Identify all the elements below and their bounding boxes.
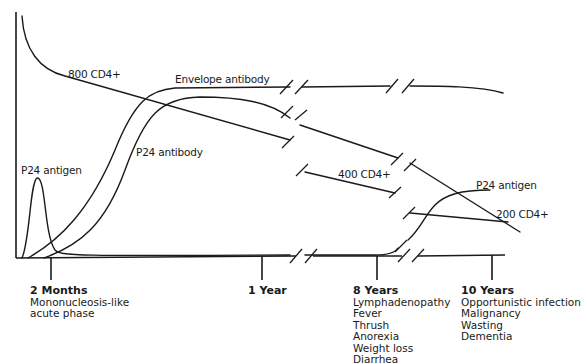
timeline-note: acute phase: [30, 308, 129, 320]
envelope-antibody-late: [410, 86, 503, 93]
timeline-title: 2 Months: [30, 285, 129, 297]
timeline-2-months: 2 Months Mononucleosis-like acute phase: [30, 285, 129, 320]
p24-antibody-curve: [44, 97, 290, 258]
label-envelope-antibody: Envelope antibody: [175, 73, 269, 85]
timeline-8-years: 8 Years Lymphadenopathy Fever Thrush Ano…: [353, 285, 450, 363]
timeline-1-year: 1 Year: [248, 285, 287, 297]
label-800-cd4: 800 CD4+: [68, 68, 121, 80]
p24-antigen-early-curve: [22, 178, 290, 258]
p24-antibody-decline: [300, 125, 398, 158]
axes: [16, 12, 505, 280]
timeline-10-years: 10 Years Opportunistic infection Maligna…: [461, 285, 581, 343]
label-200-cd4: 200 CD4+: [496, 208, 549, 220]
label-400-cd4: 400 CD4+: [338, 168, 391, 180]
timeline-note: Dementia: [461, 331, 581, 343]
label-p24-antigen-late: P24 antigen: [476, 179, 537, 191]
p24-antigen-baseline: [305, 248, 398, 255]
timeline-title: 8 Years: [353, 285, 450, 297]
p24-antigen-late-curve: [408, 190, 490, 240]
timeline-note: Fever: [353, 308, 450, 320]
timeline-note: Malignancy: [461, 308, 581, 320]
timeline-title: 10 Years: [461, 285, 581, 297]
timeline-note: Diarrhea: [353, 354, 450, 363]
label-p24-antigen-early: P24 antigen: [21, 164, 82, 176]
timeline-note: Anorexia: [353, 331, 450, 343]
label-p24-antibody: P24 antibody: [136, 146, 203, 158]
timeline-title: 1 Year: [248, 285, 287, 297]
envelope-antibody-mid: [302, 86, 390, 87]
x-axis-segment-1: [16, 256, 296, 258]
